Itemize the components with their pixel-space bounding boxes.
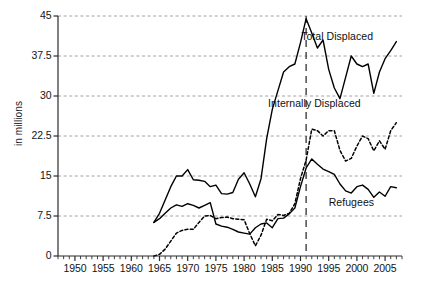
- x-axis-ticks: [58, 256, 402, 261]
- y-tick-label: 15: [18, 169, 52, 181]
- y-tick-label: 7.5: [18, 209, 52, 221]
- series-line-internally-displaced: [154, 123, 396, 256]
- y-axis-ticks: [54, 16, 59, 256]
- series-label-refugees: Refugees: [329, 196, 374, 208]
- y-tick-label: 30: [18, 89, 52, 101]
- series-line-total-displaced: [154, 19, 396, 223]
- y-tick-label: 45: [18, 9, 52, 21]
- gridlines: [58, 16, 402, 216]
- chart-container: in millions 07.51522.53037.545 195019551…: [0, 0, 424, 283]
- series-label-total-displaced: Total Displaced: [301, 30, 373, 42]
- x-tick-label: 2005: [368, 262, 402, 274]
- y-tick-label: 22.5: [18, 129, 52, 141]
- series-label-internally-displaced: Internally Displaced: [268, 97, 361, 109]
- y-tick-label: 37.5: [18, 49, 52, 61]
- chart-plot-area: [0, 0, 424, 283]
- y-tick-label: 0: [18, 249, 52, 261]
- data-series-lines: [154, 19, 396, 256]
